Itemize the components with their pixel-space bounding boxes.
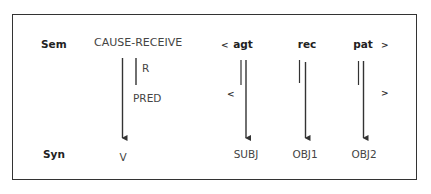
arg-role-agt: agt [233,38,253,50]
function-subj: SUBJ [234,148,259,160]
verb-label: V [119,151,126,163]
inner-open-bracket: < [227,88,235,100]
pred-label: PRED [133,92,161,104]
predicate-label: CAUSE-RECEIVE [94,37,182,49]
arg-close-bracket: > [381,39,389,51]
mapping-lines [0,0,431,194]
arg-role-rec: rec [298,38,317,50]
relation-label: R [142,62,149,74]
syn-row-label: Syn [43,148,65,160]
function-obj1: OBJ1 [292,148,317,160]
sem-row-label: Sem [41,38,67,50]
inner-close-bracket: > [381,87,389,99]
arg-role-pat: pat [353,38,373,50]
function-obj2: OBJ2 [351,148,376,160]
arg-open-bracket: < [221,39,229,51]
